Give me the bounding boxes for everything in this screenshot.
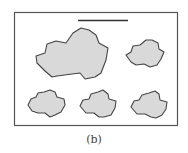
diagram	[0, 0, 188, 153]
figure-caption: (b)	[0, 133, 188, 146]
